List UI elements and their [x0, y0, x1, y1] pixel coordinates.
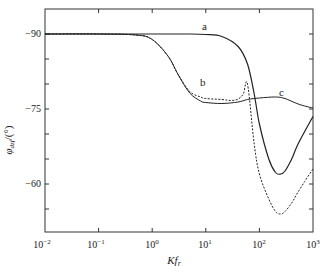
x-tick-label-1e1: 101: [198, 238, 212, 250]
curve-c: [45, 34, 313, 108]
phase-chart: −90 −75 −60 10−2 10−1 100 101 102 103 Kf…: [0, 0, 325, 267]
x-axis-title: Kfr: [166, 254, 181, 267]
axis-ticks: [45, 9, 313, 232]
x-tick-label-1e-1: 10−1: [87, 238, 105, 250]
y-tick-label-neg90: −90: [25, 28, 41, 39]
x-tick-label-1e0: 100: [145, 238, 159, 250]
x-tick-labels: 10−2 10−1 100 101 102 103: [33, 238, 320, 250]
x-tick-label-1e3: 103: [306, 238, 320, 250]
x-tick-label-1e2: 102: [252, 238, 266, 250]
y-axis-title: φdzf/(°): [2, 125, 16, 154]
y-tick-label-neg75: −75: [25, 103, 41, 114]
plot-frame: [45, 9, 313, 232]
curve-label-c: c: [279, 86, 284, 98]
curve-b-dashed: [45, 34, 313, 214]
curve-label-b: b: [200, 76, 206, 88]
curve-label-a: a: [202, 20, 207, 32]
y-tick-label-neg60: −60: [25, 178, 41, 189]
x-tick-label-1e-2: 10−2: [33, 238, 51, 250]
curve-a: [45, 34, 313, 174]
